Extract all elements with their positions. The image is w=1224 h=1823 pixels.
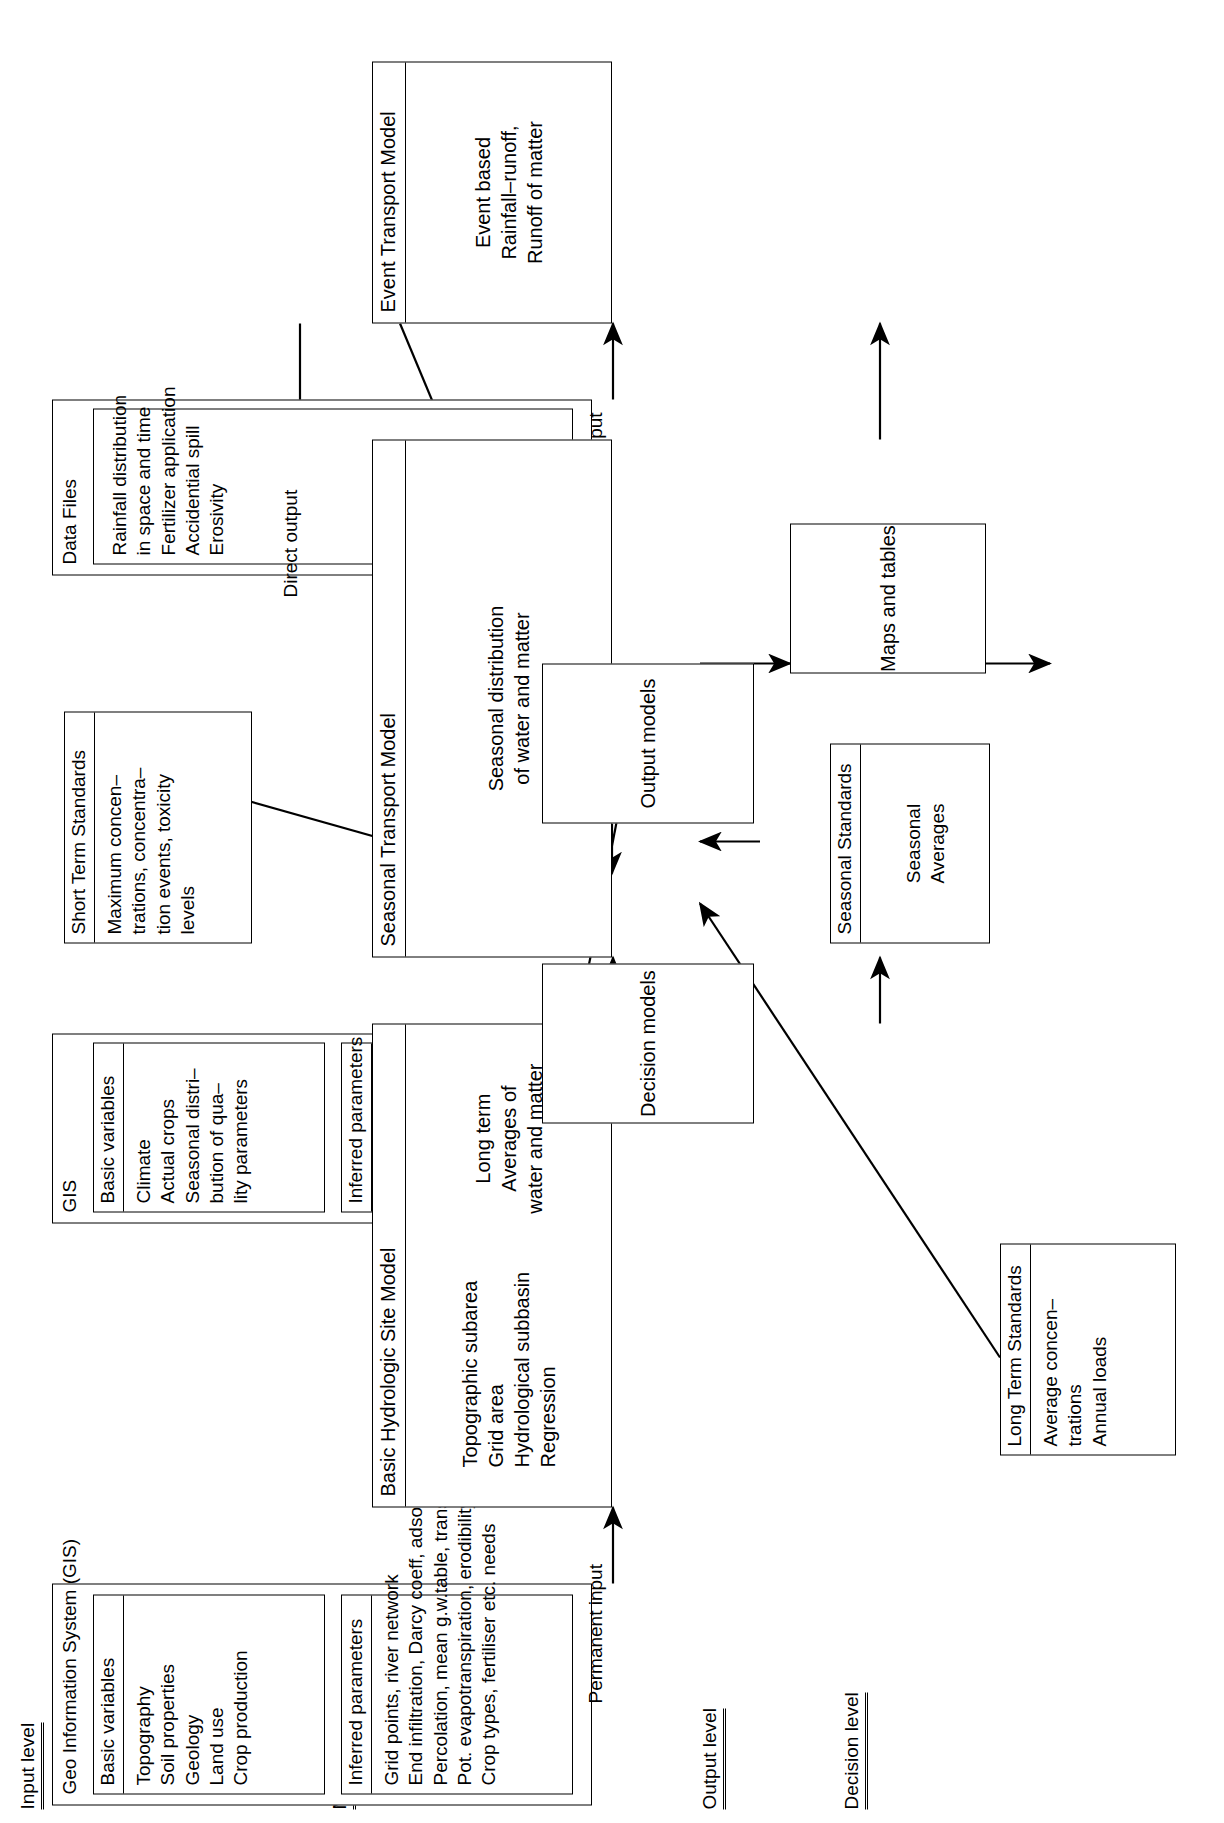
basic-hydrologic-right-list: Long term Averages of water and matter (470, 1063, 548, 1213)
list-item: Crop production (229, 1603, 253, 1785)
level-label-decision: Decision level (842, 1692, 868, 1809)
short-term-standards-panel: Short Term Standards Maximum concen– tra… (64, 711, 252, 943)
gis-seasonal-basic-panel: Basic variables Climate Actual crops Sea… (93, 1042, 325, 1212)
gis-permanent-inferred-body: Grid points, river network End infiltrat… (372, 1595, 572, 1793)
gis-permanent-title: Geo Information System (GIS) (59, 1538, 81, 1794)
list-item: Rainfall–runoff, (496, 125, 522, 259)
gis-permanent-inferred-header: Inferred parameters (342, 1595, 372, 1793)
edge-label-direct-output: Direct output (280, 489, 302, 597)
list-item: levels (176, 720, 200, 934)
list-item: Geology (181, 1603, 205, 1785)
list-item: Fertilizer application (157, 417, 181, 555)
list-item: Climate (132, 1051, 156, 1203)
gis-permanent-inferred-panel: Inferred parameters Grid points, river n… (341, 1594, 573, 1794)
gis-seasonal-basic-header: Basic variables (94, 1043, 124, 1211)
gis-permanent-basic-header: Basic variables (94, 1595, 124, 1793)
list-item: Land use (205, 1603, 229, 1785)
list-item: Hydrological subbasin (509, 1271, 535, 1467)
list-item: Soil properties (156, 1603, 180, 1785)
list-item: Averages (926, 803, 950, 883)
list-item: Average concen– (1039, 1252, 1063, 1446)
event-transport-model: Event Transport Model Event based Rainfa… (372, 61, 612, 323)
seasonal-standards-header: Seasonal Standards (831, 744, 861, 942)
list-item: lity parameters (229, 1051, 253, 1203)
decision-models-box: Decision models (542, 963, 754, 1123)
list-item: Accidential spill (181, 417, 205, 555)
basic-hydrologic-left-list: Topographic subarea Grid area Hydrologic… (457, 1271, 561, 1467)
gis-permanent-basic-body: Topography Soil properties Geology Land … (124, 1595, 324, 1793)
list-item: Actual crops (156, 1051, 180, 1203)
event-transport-body: Event based Rainfall–runoff, Runoff of m… (406, 62, 611, 322)
level-label-output: Output level (700, 1708, 726, 1809)
diagram-canvas: Input level Model level Output level Dec… (0, 0, 1224, 1823)
short-term-standards-header: Short Term Standards (65, 712, 95, 942)
list-item: Percolation, mean g.w.table, transmissiv… (429, 1603, 453, 1785)
list-item: Seasonal distribution (483, 605, 509, 791)
list-item: Regression (535, 1271, 561, 1467)
seasonal-standards-body: Seasonal Averages (861, 744, 989, 942)
list-item: Rainfall distribution (108, 417, 132, 555)
data-files-title: Data Files (59, 478, 81, 564)
long-term-standards-body: Average concen– trations Annual loads (1031, 1244, 1175, 1454)
list-item: Long term (470, 1063, 496, 1213)
list-item: Topography (132, 1603, 156, 1785)
seasonal-standards-panel: Seasonal Standards Seasonal Averages (830, 743, 990, 943)
list-item: Grid area (483, 1271, 509, 1467)
list-item: tion events, toxicity (152, 720, 176, 934)
list-item: Seasonal distri– (181, 1051, 205, 1203)
short-term-standards-body: Maximum concen– trations, concentra– tio… (95, 712, 251, 942)
edge-label-permanent-input: Permanent input (585, 1564, 607, 1703)
list-item: Maximum concen– (103, 720, 127, 934)
list-item: of water and matter (509, 612, 535, 784)
figure-rotation-wrapper: Input level Model level Output level Dec… (0, 0, 1224, 1823)
list-item: trations (1063, 1252, 1087, 1446)
long-term-standards-panel: Long Term Standards Average concen– trat… (1000, 1243, 1176, 1455)
list-item: Grid points, river network (380, 1603, 404, 1785)
list-item: Crop types, fertiliser etc. needs (477, 1603, 501, 1785)
seasonal-transport-header: Seasonal Transport Model (373, 440, 406, 956)
list-item: Runoff of matter (522, 120, 548, 263)
list-item: trations, concentra– (127, 720, 151, 934)
gis-seasonal-inferred-header: Inferred parameters (342, 1043, 372, 1211)
event-transport-header: Event Transport Model (373, 62, 406, 322)
list-item: Erosivity (205, 417, 229, 555)
basic-hydrologic-header: Basic Hydrologic Site Model (373, 1024, 406, 1506)
list-item: End infiltration, Darcy coeff, adsorptiv… (404, 1603, 428, 1785)
gis-permanent-basic-panel: Basic variables Topography Soil properti… (93, 1594, 325, 1794)
gis-seasonal-title: GIS (59, 1179, 81, 1212)
long-term-standards-header: Long Term Standards (1001, 1244, 1031, 1454)
list-item: bution of qua– (205, 1051, 229, 1203)
list-item: Seasonal (902, 803, 926, 882)
list-item: Pot. evapotranspiration, erodibility (453, 1603, 477, 1785)
list-item: Annual loads (1088, 1252, 1112, 1446)
level-label-input: Input level (18, 1722, 44, 1809)
gis-permanent-container: Geo Information System (GIS) Basic varia… (52, 1583, 592, 1805)
list-item: in space and time (132, 417, 156, 555)
maps-and-tables-box: Maps and tables (790, 523, 986, 673)
list-item: Topographic subarea (457, 1271, 483, 1467)
list-item: Averages of (496, 1063, 522, 1213)
output-models-box: Output models (542, 663, 754, 823)
list-item: Event based (470, 136, 496, 247)
gis-seasonal-basic-body: Climate Actual crops Seasonal distri– bu… (124, 1043, 324, 1211)
